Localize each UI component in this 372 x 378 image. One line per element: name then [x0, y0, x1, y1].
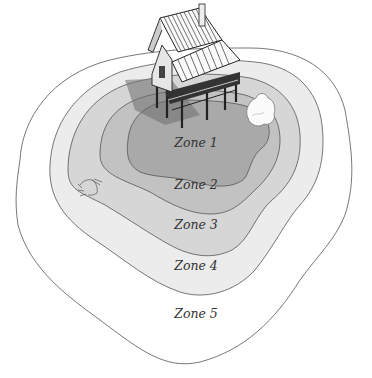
zone-3-label: Zone 3 — [173, 217, 218, 232]
zone-5-label: Zone 5 — [173, 306, 218, 321]
zone-2-label: Zone 2 — [173, 177, 218, 192]
zone-diagram: Zone 1 Zone 2 Zone 3 Zone 4 Zone 5 — [0, 0, 372, 378]
zone-4-label: Zone 4 — [173, 258, 218, 273]
zone-1-label: Zone 1 — [173, 135, 218, 150]
